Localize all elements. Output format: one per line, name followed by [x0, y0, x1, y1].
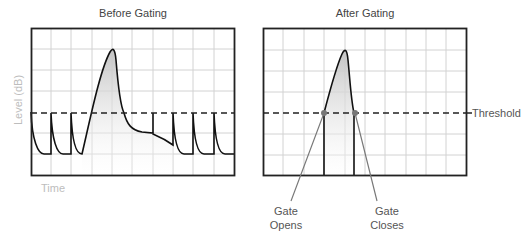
gate-opens-line2: Opens: [266, 218, 306, 232]
gate-closes-label: Gate Closes: [365, 204, 409, 232]
gate-opens-line1: Gate: [266, 204, 306, 218]
left-burst-fill: [82, 49, 173, 175]
gating-diagram: [0, 0, 529, 241]
gate-opens-label: Gate Opens: [266, 204, 306, 232]
x-axis-label: Time: [41, 182, 65, 194]
gate-closes-leader: [355, 113, 377, 201]
gate-opens-leader: [291, 113, 324, 201]
gate-closes-line1: Gate: [365, 204, 409, 218]
y-axis-label: Level (dB): [12, 68, 24, 132]
gate-closes-line2: Closes: [365, 218, 409, 232]
threshold-label: Threshold: [472, 106, 521, 120]
right-grid: [263, 28, 466, 176]
